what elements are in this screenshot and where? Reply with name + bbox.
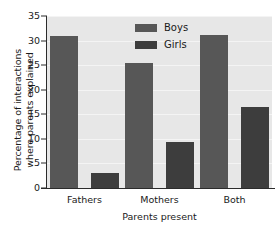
bar-both-boys [200, 35, 228, 188]
legend-swatch-boys-icon [135, 24, 157, 32]
x-axis-tick-label: Fathers [67, 194, 102, 206]
x-axis-tick-labels: FathersMothersBoth [47, 194, 272, 208]
bar-both-girls [241, 107, 269, 188]
legend-item-boys: Boys [135, 23, 188, 33]
x-axis-tick-label: Both [223, 194, 245, 206]
bar-mothers-girls [166, 142, 194, 188]
y-axis-tick-label: 35 [28, 11, 40, 21]
y-axis-tick-label: 0 [34, 183, 40, 193]
legend-label-boys: Boys [164, 23, 188, 33]
legend-swatch-girls-icon [135, 41, 157, 49]
y-axis-tick-label: 10 [28, 134, 40, 144]
bar-chart-figure: Percentage of interactions where parents… [0, 0, 278, 243]
y-axis-tick-label: 20 [28, 85, 40, 95]
y-axis-tick-label: 15 [28, 109, 40, 119]
y-axis-tick-label: 5 [34, 158, 40, 168]
legend: Boys Girls [135, 23, 188, 50]
legend-item-girls: Girls [135, 40, 188, 50]
plot-area: Boys Girls [47, 16, 272, 188]
x-axis-tick-label: Mothers [140, 194, 178, 206]
y-axis-tick-label: 25 [28, 60, 40, 70]
y-axis-tick-label: 30 [28, 36, 40, 46]
bar-fathers-boys [50, 36, 78, 188]
legend-label-girls: Girls [164, 40, 187, 50]
x-axis-line [41, 188, 275, 189]
bar-mothers-boys [125, 63, 153, 188]
y-axis-tick-labels: 05101520253035 [18, 16, 40, 188]
bar-fathers-girls [91, 173, 119, 188]
x-axis-title: Parents present [47, 211, 272, 223]
